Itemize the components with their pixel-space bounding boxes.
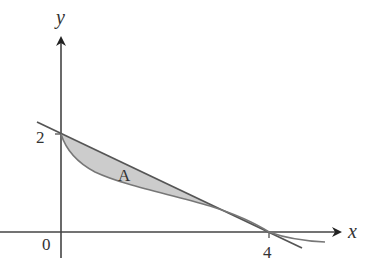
x-tick-label-4: 4 — [263, 243, 272, 262]
y-tick-label-2: 2 — [36, 128, 45, 147]
x-axis-label: x — [347, 220, 357, 242]
region-a-label: A — [118, 166, 131, 185]
y-axis-label: y — [54, 6, 65, 29]
origin-label: 0 — [42, 235, 51, 254]
straight-line — [37, 122, 302, 248]
convex-curve — [61, 134, 325, 242]
graph-canvas: y x 0 4 2 A — [0, 0, 366, 270]
